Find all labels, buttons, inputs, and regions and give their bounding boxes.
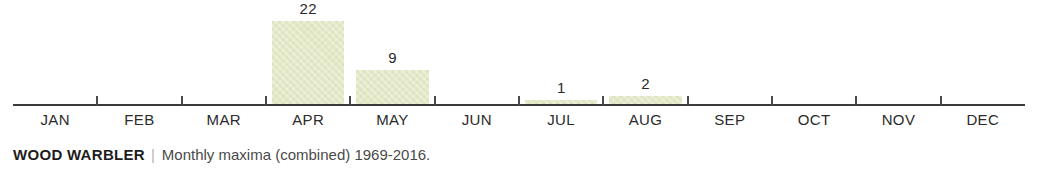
x-axis-tick bbox=[349, 96, 351, 105]
month-label-jul: JUL bbox=[519, 110, 603, 130]
caption-description: Monthly maxima (combined) 1969-2016. bbox=[162, 146, 430, 163]
plot-area: 22912 bbox=[13, 0, 1025, 105]
x-axis-tick bbox=[940, 96, 942, 105]
caption-separator: | bbox=[145, 146, 162, 163]
bar-slot: 1 bbox=[525, 0, 597, 105]
bar-slot: 22 bbox=[272, 0, 344, 105]
caption-species-name: WOOD WARBLER bbox=[13, 146, 145, 163]
bar-slot bbox=[188, 0, 260, 105]
bar-slot bbox=[694, 0, 766, 105]
chart-figure: 22912 JANFEBMARAPRMAYJUNJULAUGSEPOCTNOVD… bbox=[0, 0, 1038, 174]
bar-slot bbox=[947, 0, 1019, 105]
month-label-nov: NOV bbox=[856, 110, 940, 130]
bar-apr bbox=[272, 21, 344, 104]
bar-jul bbox=[525, 100, 597, 104]
month-label-may: MAY bbox=[350, 110, 434, 130]
month-label-mar: MAR bbox=[182, 110, 266, 130]
month-label-oct: OCT bbox=[772, 110, 856, 130]
bar-slot: 9 bbox=[356, 0, 428, 105]
month-label-jun: JUN bbox=[435, 110, 519, 130]
x-axis-tick bbox=[181, 96, 183, 105]
bar-slot: 2 bbox=[609, 0, 681, 105]
month-label-sep: SEP bbox=[688, 110, 772, 130]
month-label-feb: FEB bbox=[97, 110, 181, 130]
x-axis-tick bbox=[687, 96, 689, 105]
bar-aug bbox=[609, 96, 681, 104]
x-axis-tick bbox=[265, 96, 267, 105]
bar-slot bbox=[778, 0, 850, 105]
bar-value-label-apr: 22 bbox=[272, 1, 344, 16]
month-label-apr: APR bbox=[266, 110, 350, 130]
bar-slot bbox=[103, 0, 175, 105]
month-label-jan: JAN bbox=[13, 110, 97, 130]
month-label-aug: AUG bbox=[603, 110, 687, 130]
x-axis-tick bbox=[855, 96, 857, 105]
bar-may bbox=[356, 70, 428, 104]
x-axis-tick bbox=[602, 96, 604, 105]
bar-value-label-jul: 1 bbox=[525, 80, 597, 95]
x-axis-tick bbox=[434, 96, 436, 105]
bar-slot bbox=[441, 0, 513, 105]
x-axis-tick bbox=[771, 96, 773, 105]
x-axis-tick-labels: JANFEBMARAPRMAYJUNJULAUGSEPOCTNOVDEC bbox=[13, 110, 1025, 134]
x-axis-tick bbox=[96, 96, 98, 105]
x-axis-tick bbox=[518, 96, 520, 105]
bar-slot bbox=[862, 0, 934, 105]
bar-value-label-may: 9 bbox=[356, 50, 428, 65]
bar-value-label-aug: 2 bbox=[609, 76, 681, 91]
chart-caption: WOOD WARBLER|Monthly maxima (combined) 1… bbox=[13, 145, 1025, 169]
bar-slot bbox=[19, 0, 91, 105]
month-label-dec: DEC bbox=[941, 110, 1025, 130]
